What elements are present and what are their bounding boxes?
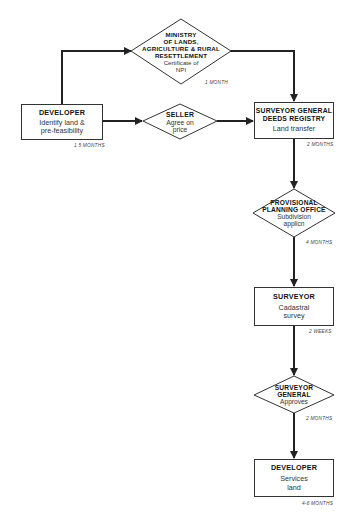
ministry-line2: NPI [176, 66, 186, 73]
edge-developer-to-ministry [62, 51, 131, 104]
deeds-duration: 2 MONTHS [307, 142, 333, 147]
seller-line1: Agree on [166, 119, 194, 127]
ministry-duration: 1 MONTH [205, 80, 228, 85]
developer-start-duration: 1.5 MONTHS [74, 143, 105, 148]
ministry-title-3: AGRICULTURE & RURAL [142, 45, 220, 52]
node-provisional-planning: PROVISIONAL PLANNING OFFICE Subdivision … [254, 196, 334, 230]
surveyor-line2: survey [283, 312, 304, 321]
developer-end-duration: 4-6 MONTHS [302, 501, 333, 506]
node-surveyor-general-approves: SURVEYOR GENERAL Approves [262, 381, 326, 409]
developer-start-line2: pre-feasibility [41, 127, 83, 136]
developer-end-title: DEVELOPER [271, 464, 317, 472]
deeds-line1: Land transfer [273, 125, 315, 134]
node-developer-start: DEVELOPER Identify land & pre-feasibilit… [21, 104, 103, 140]
developer-start-title: DEVELOPER [39, 109, 85, 117]
node-seller: SELLER Agree on price [150, 106, 210, 138]
approves-line1: Approves [280, 398, 308, 406]
provisional-line1: Subdivision [277, 213, 311, 220]
ministry-title-2: OF LANDS, [163, 38, 198, 45]
node-ministry: MINISTRY OF LANDS, AGRICULTURE & RURAL R… [131, 21, 231, 83]
ministry-title-1: MINISTRY [166, 31, 197, 38]
provisional-line2: applicn [284, 220, 305, 227]
ministry-title-4: RESETTLEMENT [155, 52, 207, 59]
provisional-duration: 4 MONTHS [306, 240, 332, 245]
provisional-title-1: PROVISIONAL [270, 199, 318, 206]
seller-title: SELLER [166, 111, 194, 119]
approves-title-1: SURVEYOR [275, 384, 314, 391]
seller-line2: price [173, 126, 188, 134]
approves-duration: 2 MONTHS [306, 416, 332, 421]
deeds-title-2: DEEDS REGISTRY [263, 115, 326, 123]
approves-title-2: GENERAL [277, 391, 311, 398]
edge-ministry-to-deeds [230, 51, 294, 101]
developer-end-line2: land [287, 484, 301, 493]
ministry-line1: Certificate of [164, 59, 199, 66]
deeds-title-1: SURVEYOR GENERAL [256, 107, 332, 115]
surveyor-title: SURVEYOR [273, 293, 315, 301]
node-developer-end: DEVELOPER Services land [254, 459, 334, 497]
node-surveyor: SURVEYOR Cadastral survey [254, 287, 334, 326]
surveyor-duration: 2 WEEKS [309, 329, 332, 334]
provisional-title-2: PLANNING OFFICE [262, 206, 325, 213]
node-surveyor-general-deeds: SURVEYOR GENERAL DEEDS REGISTRY Land tra… [254, 102, 334, 139]
